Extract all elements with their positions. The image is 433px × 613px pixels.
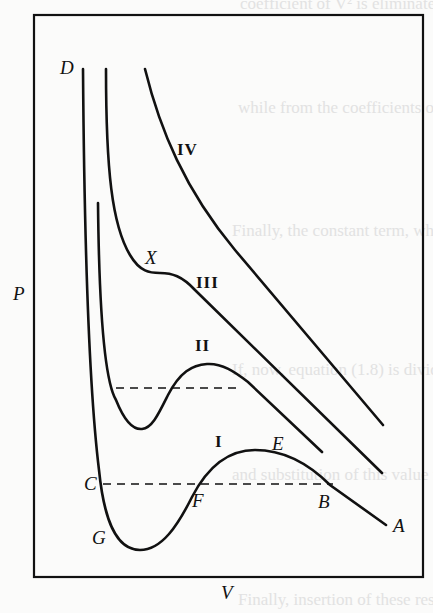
x-axis-label: V xyxy=(221,583,233,602)
point-label-X: X xyxy=(145,248,157,267)
point-label-B: B xyxy=(318,492,330,511)
y-axis-label: P xyxy=(13,284,25,303)
point-label-D: D xyxy=(60,58,74,77)
point-label-E: E xyxy=(272,434,284,453)
curve-label-IV: IV xyxy=(177,141,198,158)
curve-label-I: I xyxy=(215,433,223,450)
curve-label-III: III xyxy=(196,274,219,291)
isotherm-IV xyxy=(145,69,383,425)
pv-diagram xyxy=(0,0,433,613)
isotherm-II xyxy=(98,203,322,452)
isotherm-I xyxy=(83,69,386,550)
point-label-A: A xyxy=(393,516,405,535)
curve-label-II: II xyxy=(195,337,210,354)
point-label-C: C xyxy=(84,474,97,493)
point-label-F: F xyxy=(192,491,204,510)
isotherm-III xyxy=(106,69,382,473)
point-label-G: G xyxy=(92,528,106,547)
